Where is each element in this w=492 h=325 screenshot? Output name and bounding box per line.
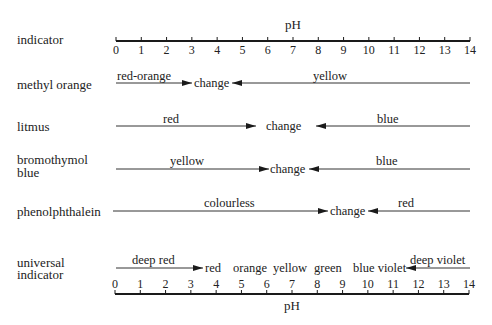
- top-axis-ph-label: pH: [285, 18, 301, 31]
- litmus-acid-colour: red: [163, 113, 179, 125]
- tick-label-13: 13: [438, 278, 450, 290]
- bromothymol-blue-change: change: [270, 163, 305, 175]
- universal-yellow: yellow: [273, 262, 307, 274]
- methyl-orange-change: change: [194, 77, 229, 89]
- tick-label-10: 10: [362, 278, 374, 290]
- indicator-header: indicator: [17, 33, 63, 46]
- tick-label-5: 5: [238, 278, 244, 290]
- tick-label-11: 11: [387, 278, 399, 290]
- bottom-axis-ph-label: pH: [284, 299, 300, 312]
- tick-label-6: 6: [265, 44, 271, 56]
- tick-label-3: 3: [189, 44, 195, 56]
- tick-label-4: 4: [213, 278, 219, 290]
- top-ph-axis: [116, 37, 470, 41]
- tick-label-8: 8: [315, 44, 321, 56]
- tick-label-1: 1: [137, 278, 143, 290]
- tick-label-12: 12: [412, 278, 424, 290]
- tick-label-0: 0: [113, 44, 119, 56]
- tick-label-9: 9: [340, 278, 346, 290]
- universal-deep-violet: deep violet: [410, 254, 465, 266]
- tick-label-1: 1: [138, 44, 144, 56]
- tick-label-7: 7: [290, 44, 296, 56]
- bromothymol-blue-alkali-colour: blue: [376, 155, 398, 167]
- tick-label-10: 10: [363, 44, 375, 56]
- tick-label-5: 5: [239, 44, 245, 56]
- universal-green: green: [314, 262, 342, 274]
- phenolphthalein-acid-colour: colourless: [204, 197, 255, 209]
- tick-label-13: 13: [439, 44, 451, 56]
- litmus-alkali-colour: blue: [377, 113, 399, 125]
- universal-indicator-label-line2: indicator: [17, 268, 63, 281]
- ph-indicator-diagram: pH indicator 01234567891011121314 methyl…: [0, 0, 492, 325]
- universal-orange: orange: [233, 262, 267, 274]
- phenolphthalein-label: phenolphthalein: [17, 205, 101, 218]
- tick-label-6: 6: [264, 278, 270, 290]
- tick-label-2: 2: [164, 44, 170, 56]
- methyl-orange-acid-colour: red-orange: [117, 70, 171, 82]
- tick-label-9: 9: [341, 44, 347, 56]
- tick-label-11: 11: [388, 44, 400, 56]
- litmus-change: change: [266, 120, 301, 132]
- tick-label-3: 3: [188, 278, 194, 290]
- bromothymol-blue-label-line2: blue: [17, 166, 39, 179]
- methyl-orange-label: methyl orange: [17, 78, 92, 91]
- phenolphthalein-alkali-colour: red: [398, 197, 414, 209]
- litmus-label: litmus: [17, 120, 50, 133]
- universal-red: red: [205, 262, 221, 274]
- tick-label-8: 8: [314, 278, 320, 290]
- tick-label-14: 14: [464, 44, 476, 56]
- tick-label-7: 7: [289, 278, 295, 290]
- tick-label-0: 0: [112, 278, 118, 290]
- universal-blue-violet: blue violet: [353, 262, 406, 274]
- phenolphthalein-change: change: [330, 205, 365, 217]
- methyl-orange-alkali-colour: yellow: [313, 70, 347, 82]
- bromothymol-blue-acid-colour: yellow: [170, 155, 204, 167]
- tick-label-14: 14: [463, 278, 475, 290]
- tick-label-4: 4: [214, 44, 220, 56]
- universal-deep-red: deep red: [132, 254, 175, 266]
- tick-label-2: 2: [163, 278, 169, 290]
- tick-label-12: 12: [413, 44, 425, 56]
